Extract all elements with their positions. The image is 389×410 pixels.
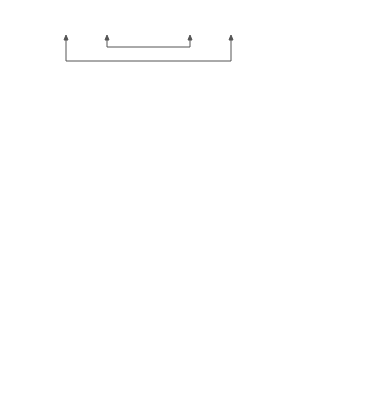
arrowhead-icon [64, 35, 68, 40]
som-neighborhood-diagram [0, 0, 389, 410]
radius-brackets [64, 35, 233, 61]
arrowhead-icon [188, 35, 192, 40]
arrowhead-icon [105, 35, 109, 40]
arrowhead-icon [229, 35, 233, 40]
radius-2-bracket [66, 37, 231, 61]
radius-1-bracket [107, 37, 190, 47]
